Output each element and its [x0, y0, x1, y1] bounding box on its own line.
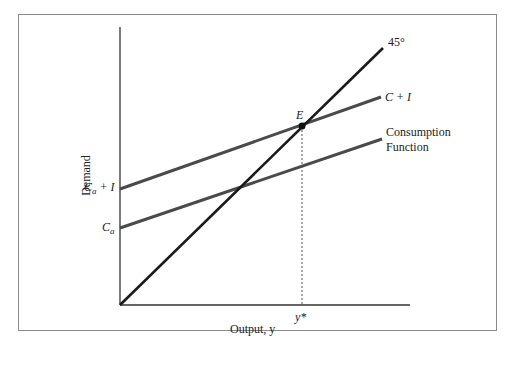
label-consumption: Consumption	[386, 125, 451, 140]
label-ca-plus-i: Ca + I	[84, 180, 115, 196]
consumption-function-line	[120, 139, 382, 228]
x-axis-label: Output, y	[230, 322, 275, 337]
chart-svg	[0, 0, 514, 368]
label-ca: Ca	[102, 220, 115, 236]
equilibrium-point-e	[299, 123, 306, 130]
label-45-degree: 45°	[388, 35, 405, 50]
label-c-plus-i: C + I	[385, 90, 411, 105]
label-y-star: y*	[295, 310, 306, 325]
c-plus-i-line	[120, 97, 381, 189]
y-axis-label: Demand	[79, 146, 94, 206]
label-function: Function	[386, 140, 429, 155]
label-e: E	[296, 108, 303, 123]
